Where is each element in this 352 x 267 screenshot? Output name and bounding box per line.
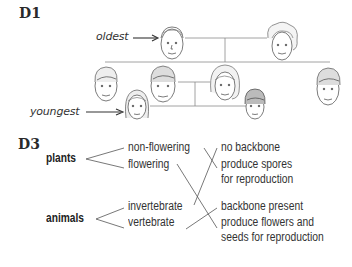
description-line: for reproduction <box>221 172 293 187</box>
branch-vertebrate: vertebrate <box>128 215 174 230</box>
description-produce-spores: produce spores for reproduction <box>221 157 293 187</box>
description-line: no backbone <box>221 140 280 155</box>
girl-face-icon <box>125 90 148 119</box>
grandmother-face-icon <box>268 22 298 60</box>
man-face-left-icon <box>95 67 117 101</box>
description-no-backbone: no backbone <box>221 140 280 155</box>
animals-branch-line <box>96 219 124 228</box>
match-line-invertebrate <box>194 148 217 205</box>
description-produce-flowers: produce flowers and seeds for reproducti… <box>221 215 324 245</box>
man-face-right-icon <box>317 68 340 105</box>
section-d3-heading: D3 <box>18 136 40 152</box>
woman-face-icon <box>211 65 240 100</box>
match-line-flowering <box>177 164 217 228</box>
description-line: backbone present <box>221 199 303 214</box>
animals-branch-line <box>96 208 124 219</box>
description-backbone-present: backbone present <box>221 199 303 214</box>
match-line-vertebrate <box>186 208 217 229</box>
category-plants: plants <box>46 151 76 165</box>
branch-invertebrate: invertebrate <box>128 199 183 214</box>
oldest-label: oldest <box>96 30 128 43</box>
category-animals: animals <box>46 211 84 225</box>
plants-branch-line <box>86 148 124 159</box>
description-line: produce spores <box>221 157 293 172</box>
grandfather-face-icon <box>161 27 183 59</box>
youngest-label: youngest <box>30 105 79 118</box>
branch-flowering: flowering <box>128 157 169 172</box>
boy-face-icon <box>245 89 265 119</box>
plants-branch-line <box>86 159 124 168</box>
man-face-middle-icon <box>151 66 175 102</box>
description-line: produce flowers and <box>221 215 324 230</box>
description-line: seeds for reproduction <box>221 230 324 245</box>
branch-non-flowering: non-flowering <box>128 140 190 155</box>
